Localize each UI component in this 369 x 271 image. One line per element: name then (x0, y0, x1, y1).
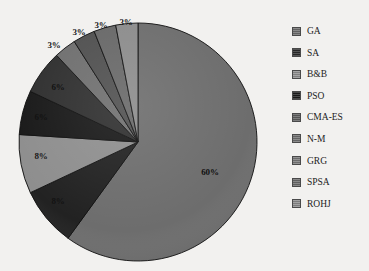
legend-item-sa[interactable]: SA (292, 48, 368, 58)
legend-swatch-icon (292, 91, 301, 100)
legend-swatch-icon (292, 70, 301, 79)
pie-chart-area: 60%8%8%6%6%3%3%3%3% (0, 0, 280, 271)
legend-swatch-icon (292, 156, 301, 165)
pie-slice-percent-label: 3% (119, 17, 132, 27)
legend-item-grg[interactable]: GRG (292, 156, 368, 166)
legend-item-label: ROHJ (307, 199, 331, 209)
legend-item-cma-es[interactable]: CMA-ES (292, 112, 368, 122)
legend-item-label: B&B (307, 69, 327, 79)
legend-item-pso[interactable]: PSO (292, 91, 368, 101)
legend-swatch-icon (292, 134, 301, 143)
legend-swatch-icon (292, 178, 301, 187)
pie-slice-percent-label: 3% (94, 20, 107, 30)
pie-chart-svg (0, 0, 280, 271)
pie-slice-percent-label: 60% (201, 167, 218, 177)
legend-item-b-b[interactable]: B&B (292, 69, 368, 79)
legend-item-label: N-M (307, 134, 325, 144)
pie-slice-percent-label: 8% (34, 151, 47, 161)
legend-item-label: PSO (307, 91, 324, 101)
pie-slice-percent-label: 6% (34, 112, 47, 122)
legend-swatch-icon (292, 199, 301, 208)
legend-item-label: CMA-ES (307, 112, 343, 122)
chart-legend: GASAB&BPSOCMA-ESN-MGRGSPSAROHJ (292, 26, 368, 209)
legend-item-label: SA (307, 48, 319, 58)
pie-slices-group (19, 23, 257, 261)
legend-item-label: GA (307, 26, 321, 36)
legend-item-rohj[interactable]: ROHJ (292, 199, 368, 209)
pie-slice-percent-label: 8% (51, 196, 64, 206)
legend-item-label: GRG (307, 156, 327, 166)
legend-item-ga[interactable]: GA (292, 26, 368, 36)
legend-swatch-icon (292, 113, 301, 122)
legend-item-n-m[interactable]: N-M (292, 134, 368, 144)
pie-slice-percent-label: 3% (72, 27, 85, 37)
pie-slice-percent-label: 3% (47, 40, 60, 50)
pie-slice-percent-label: 6% (51, 82, 64, 92)
legend-item-spsa[interactable]: SPSA (292, 177, 368, 187)
pie-chart-screenshot: 60%8%8%6%6%3%3%3%3% GASAB&BPSOCMA-ESN-MG… (0, 0, 369, 271)
legend-swatch-icon (292, 27, 301, 36)
legend-swatch-icon (292, 48, 301, 57)
legend-item-label: SPSA (307, 177, 330, 187)
